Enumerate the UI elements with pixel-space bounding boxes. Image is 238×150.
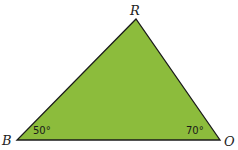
- triangle-diagram: R B O 50° 70°: [0, 0, 238, 150]
- vertex-label-r: R: [129, 3, 140, 18]
- angle-label-o: 70°: [186, 125, 204, 136]
- vertex-label-b: B: [1, 133, 12, 148]
- vertex-label-o: O: [224, 134, 235, 149]
- triangle-BRO: [17, 19, 220, 140]
- angle-label-b: 50°: [33, 125, 51, 136]
